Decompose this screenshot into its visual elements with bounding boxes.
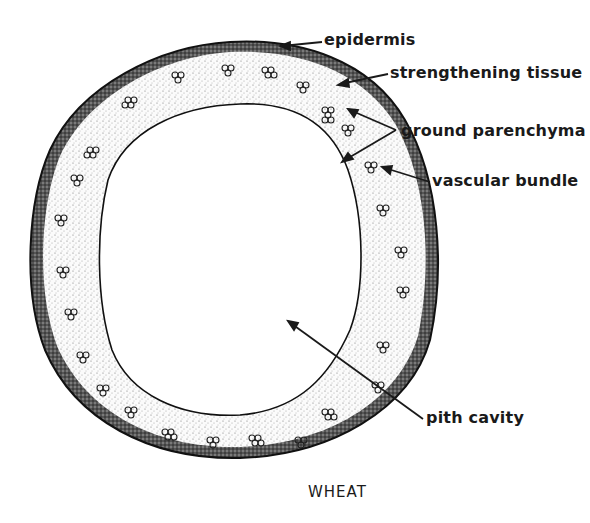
diagram-title: WHEAT <box>308 483 367 501</box>
label-epidermis: epidermis <box>324 30 415 49</box>
label-strengthening-tissue: strengthening tissue <box>390 63 582 82</box>
label-vascular-bundle: vascular bundle <box>432 171 578 190</box>
label-ground-parenchyma: ground parenchyma <box>401 121 586 140</box>
label-pith-cavity: pith cavity <box>426 408 524 427</box>
pith-cavity <box>99 104 361 415</box>
